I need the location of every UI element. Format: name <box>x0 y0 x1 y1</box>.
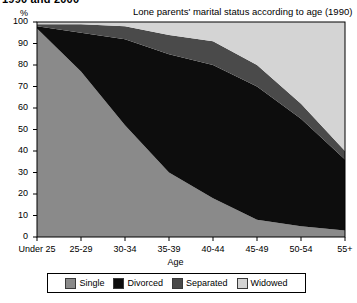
x-axis-tick-label: 45-49 <box>232 244 282 254</box>
legend-swatch-icon <box>65 278 76 289</box>
y-axis-tick-label: 0 <box>2 231 28 241</box>
y-axis-tick-label: 80 <box>2 59 28 69</box>
legend-item-single[interactable]: Single <box>65 278 104 289</box>
x-axis-tick-label: 55+ <box>320 244 357 254</box>
y-axis-tick-label: 60 <box>2 102 28 112</box>
legend-label: Single <box>79 278 104 288</box>
legend-item-divorced[interactable]: Divorced <box>113 278 163 289</box>
x-axis-tick-label: 30-34 <box>100 244 150 254</box>
legend-label: Divorced <box>127 278 163 288</box>
y-axis-tick-label: 50 <box>2 124 28 134</box>
x-axis-tick-label: 35-39 <box>144 244 194 254</box>
legend-label: Widowed <box>251 278 288 288</box>
y-axis-tick-label: 100 <box>2 16 28 26</box>
y-axis-tick-label: 20 <box>2 188 28 198</box>
legend-item-separated[interactable]: Separated <box>172 278 228 289</box>
x-axis-tick-label: Under 25 <box>12 244 62 254</box>
legend-swatch-icon <box>172 278 183 289</box>
x-axis-tick-label: 40-44 <box>188 244 238 254</box>
legend-label: Separated <box>186 278 228 288</box>
y-axis-tick-label: 70 <box>2 81 28 91</box>
y-axis-tick-label: 30 <box>2 167 28 177</box>
legend-swatch-icon <box>237 278 248 289</box>
x-axis-tick-label: 25-29 <box>56 244 106 254</box>
y-axis-tick-label: 10 <box>2 210 28 220</box>
chart-legend: SingleDivorcedSeparatedWidowed <box>47 273 306 293</box>
legend-swatch-icon <box>113 278 124 289</box>
y-axis-tick-label: 40 <box>2 145 28 155</box>
x-axis-tick-label: 50-54 <box>276 244 326 254</box>
y-axis-tick-label: 90 <box>2 38 28 48</box>
legend-item-widowed[interactable]: Widowed <box>237 278 288 289</box>
x-axis-title: Age <box>0 257 351 267</box>
